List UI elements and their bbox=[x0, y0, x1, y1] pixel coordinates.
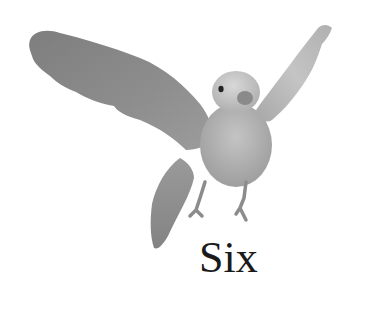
head bbox=[212, 71, 260, 113]
cheek bbox=[237, 91, 253, 105]
right-leg bbox=[236, 182, 246, 220]
word-label: Six bbox=[199, 236, 258, 280]
flashcard: Six bbox=[0, 0, 368, 317]
tail bbox=[151, 158, 194, 249]
left-leg bbox=[190, 182, 205, 216]
right-wing bbox=[256, 25, 332, 122]
left-wing bbox=[29, 31, 214, 150]
eye bbox=[218, 86, 223, 92]
bird-illustration bbox=[0, 0, 368, 317]
